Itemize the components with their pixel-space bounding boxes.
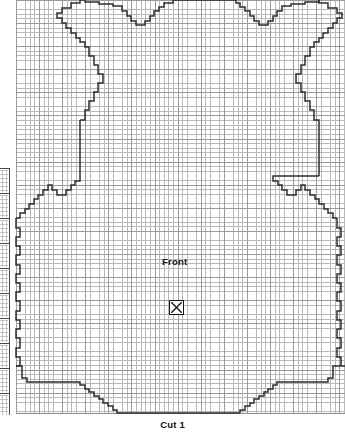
pattern-outline — [0, 0, 345, 435]
pattern-chart-page: Front Cut 1 — [0, 0, 345, 435]
page-title: Front — [162, 256, 187, 267]
cut-instruction-label: Cut 1 — [0, 419, 345, 430]
grainline-marker-icon — [169, 300, 184, 315]
